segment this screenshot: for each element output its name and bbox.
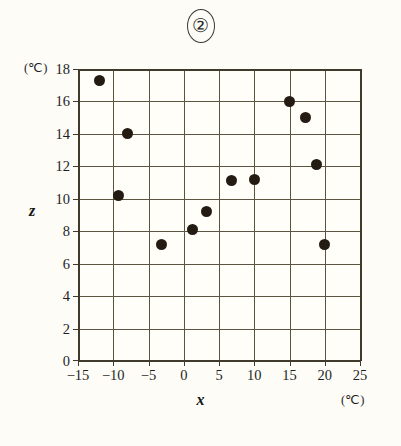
plot-frame-horizontal — [78, 69, 360, 71]
x-axis-tick-label: 10 — [234, 368, 274, 383]
y-axis-tick-label: 6 — [30, 257, 70, 272]
scatter-chart-figure: ② (℃) z x (℃) −15−10−5051015202502468101… — [0, 0, 401, 446]
x-axis-tick-label: −5 — [129, 368, 169, 383]
y-axis-tick-label: 8 — [30, 224, 70, 239]
gridline-horizontal — [78, 296, 360, 297]
gridline-horizontal — [78, 329, 360, 330]
y-axis-tick-label: 10 — [30, 192, 70, 207]
y-axis-tick-label: 16 — [30, 94, 70, 109]
data-point — [226, 175, 237, 186]
x-axis-tick-label: −15 — [58, 368, 98, 383]
data-point — [201, 206, 212, 217]
gridline-vertical — [219, 69, 220, 361]
data-point — [300, 112, 311, 123]
data-point — [187, 224, 198, 235]
x-axis-tick-label: −10 — [93, 368, 133, 383]
y-axis-tick-label: 18 — [30, 62, 70, 77]
x-axis-tick-label: 15 — [270, 368, 310, 383]
y-axis-tick-label: 12 — [30, 159, 70, 174]
x-axis-tick-mark — [360, 361, 361, 366]
plot-frame-vertical — [360, 69, 362, 361]
gridline-vertical — [184, 69, 185, 361]
x-axis-tick-mark — [254, 361, 255, 366]
y-axis-tick-label: 4 — [30, 289, 70, 304]
data-point — [122, 128, 133, 139]
data-point — [319, 239, 330, 250]
gridline-vertical — [254, 69, 255, 361]
x-axis-tick-mark — [78, 361, 79, 366]
gridline-vertical — [113, 69, 114, 361]
plot-area — [78, 69, 360, 361]
data-point — [113, 190, 124, 201]
x-axis-tick-label: 20 — [305, 368, 345, 383]
x-axis-unit-label: (℃) — [341, 394, 364, 407]
data-point — [311, 159, 322, 170]
data-point — [156, 239, 167, 250]
y-axis-tick-label: 2 — [30, 322, 70, 337]
y-axis-tick-label: 14 — [30, 127, 70, 142]
x-axis-tick-mark — [325, 361, 326, 366]
data-point — [249, 174, 260, 185]
x-axis-tick-label: 5 — [199, 368, 239, 383]
chart-title-text: ② — [187, 9, 215, 43]
gridline-vertical — [290, 69, 291, 361]
data-point — [94, 75, 105, 86]
x-axis-tick-mark — [184, 361, 185, 366]
x-axis-tick-mark — [290, 361, 291, 366]
gridline-horizontal — [78, 231, 360, 232]
plot-frame-horizontal — [78, 360, 360, 362]
gridline-horizontal — [78, 101, 360, 102]
chart-title: ② — [0, 9, 401, 43]
x-axis-tick-label: 25 — [340, 368, 380, 383]
plot-frame-vertical — [78, 69, 80, 361]
x-axis-tick-mark — [113, 361, 114, 366]
x-axis-tick-mark — [149, 361, 150, 366]
x-axis-tick-mark — [219, 361, 220, 366]
gridline-vertical — [149, 69, 150, 361]
gridline-horizontal — [78, 264, 360, 265]
gridline-horizontal — [78, 134, 360, 135]
data-point — [284, 96, 295, 107]
gridline-vertical — [325, 69, 326, 361]
y-axis-tick-label: 0 — [30, 354, 70, 369]
x-axis-tick-label: 0 — [164, 368, 204, 383]
